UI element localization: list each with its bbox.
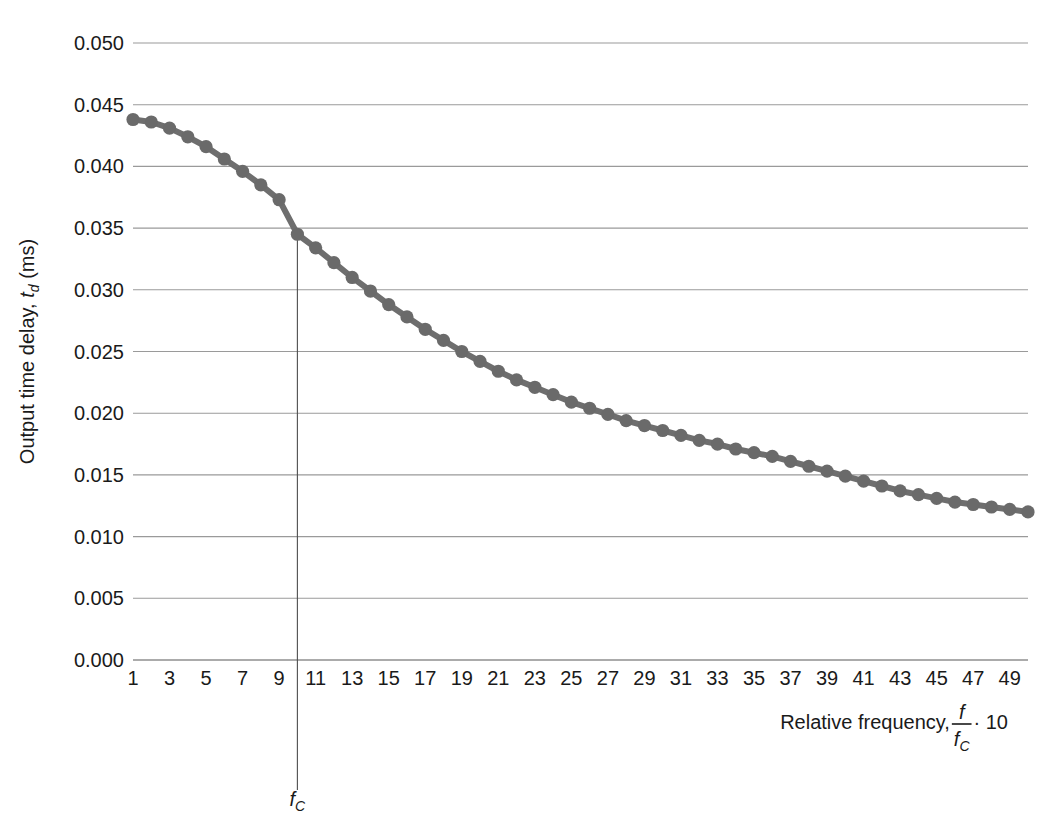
- data-point: [711, 437, 724, 450]
- data-point: [346, 271, 359, 284]
- data-point: [985, 500, 998, 513]
- series-markers: [126, 113, 1034, 519]
- x-axis-tick-label: 1: [127, 667, 138, 689]
- data-point: [912, 488, 925, 501]
- data-point: [309, 241, 322, 254]
- data-point: [145, 115, 158, 128]
- gridlines: [133, 43, 1028, 660]
- x-axis-tick-label: 33: [706, 667, 728, 689]
- y-axis-tick-label: 0.025: [74, 341, 124, 363]
- y-axis-tick-label: 0.020: [74, 402, 124, 424]
- data-point: [528, 381, 541, 394]
- data-point: [254, 178, 267, 191]
- x-axis-title-denominator: fC: [954, 728, 971, 754]
- x-axis-tick-label: 3: [164, 667, 175, 689]
- data-point: [857, 474, 870, 487]
- data-point: [693, 434, 706, 447]
- x-axis-title-denominator-subscript: C: [959, 738, 970, 754]
- x-axis-tick-label: 21: [487, 667, 509, 689]
- data-point: [875, 479, 888, 492]
- data-point: [181, 130, 194, 143]
- x-axis-tick-label: 43: [889, 667, 911, 689]
- x-axis-tick-label: 41: [852, 667, 874, 689]
- x-axis-tick-label: 31: [670, 667, 692, 689]
- x-axis-title-numerator: f: [959, 701, 967, 723]
- data-point: [620, 414, 633, 427]
- x-axis-title: · 10Relative frequency, ffC: [780, 701, 1008, 754]
- x-axis-tick-label: 13: [341, 667, 363, 689]
- x-axis-title-prefix: Relative frequency,: [780, 711, 950, 733]
- data-point: [547, 388, 560, 401]
- data-point: [766, 450, 779, 463]
- y-axis-tick-label: 0.040: [74, 155, 124, 177]
- data-point: [273, 193, 286, 206]
- data-point: [419, 323, 432, 336]
- data-point: [729, 442, 742, 455]
- data-point: [674, 429, 687, 442]
- y-axis-tick-label: 0.010: [74, 526, 124, 548]
- data-point: [930, 492, 943, 505]
- data-point: [455, 345, 468, 358]
- x-axis-tick-label: 5: [200, 667, 211, 689]
- data-point: [382, 298, 395, 311]
- x-axis-tick-label: 47: [962, 667, 984, 689]
- y-axis-title: Output time delay, td (ms): [16, 239, 42, 464]
- data-point: [948, 495, 961, 508]
- data-point: [583, 402, 596, 415]
- x-axis-title-suffix: · 10: [974, 711, 1008, 733]
- x-axis-tick-label: 37: [779, 667, 801, 689]
- data-point: [199, 140, 212, 153]
- data-point: [492, 365, 505, 378]
- y-axis-tick-label: 0.035: [74, 217, 124, 239]
- x-axis-tick-label: 27: [597, 667, 619, 689]
- x-axis-tick-label: 9: [274, 667, 285, 689]
- x-axis-tick-label: 7: [237, 667, 248, 689]
- x-axis-tick-label: 19: [451, 667, 473, 689]
- fc-annotation-subscript: C: [295, 798, 306, 814]
- x-axis-tick-label: 17: [414, 667, 436, 689]
- y-axis-title-prefix: Output time delay,: [16, 298, 38, 464]
- data-point: [638, 419, 651, 432]
- data-point: [126, 113, 139, 126]
- data-point: [601, 408, 614, 421]
- x-axis-tick-label: 11: [305, 667, 326, 689]
- y-axis-tick-label: 0.015: [74, 464, 124, 486]
- x-axis-tick-label: 25: [560, 667, 582, 689]
- data-point: [218, 152, 231, 165]
- series-line: [133, 120, 1028, 512]
- data-point: [967, 498, 980, 511]
- data-point: [437, 334, 450, 347]
- x-axis-tick-label: 23: [524, 667, 546, 689]
- x-axis-tick-label: 35: [743, 667, 765, 689]
- data-point: [565, 395, 578, 408]
- data-point: [784, 455, 797, 468]
- data-point: [400, 310, 413, 323]
- x-axis-tick-label: 39: [816, 667, 838, 689]
- x-axis-tick-labels: 1357911131517192123252729313335373941434…: [127, 667, 1020, 689]
- x-axis-tick-label: 15: [378, 667, 400, 689]
- data-point: [291, 228, 304, 241]
- fc-annotation-label: fC: [290, 788, 307, 814]
- y-axis-tick-label: 0.050: [74, 32, 124, 54]
- data-point: [1003, 503, 1016, 516]
- data-point: [1021, 505, 1034, 518]
- data-point: [163, 122, 176, 135]
- x-axis-tick-label: 29: [633, 667, 655, 689]
- data-point: [327, 256, 340, 269]
- x-axis-tick-label: 45: [926, 667, 948, 689]
- data-point: [236, 165, 249, 178]
- data-point: [839, 470, 852, 483]
- data-point: [473, 355, 486, 368]
- data-point: [656, 424, 669, 437]
- line-chart: 0.0000.0050.0100.0150.0200.0250.0300.035…: [0, 0, 1054, 832]
- data-point: [510, 373, 523, 386]
- y-axis-tick-label: 0.030: [74, 279, 124, 301]
- data-point: [820, 465, 833, 478]
- y-axis-tick-label: 0.045: [74, 94, 124, 116]
- data-point: [894, 484, 907, 497]
- y-axis-tick-label: 0.000: [74, 649, 124, 671]
- data-point: [747, 446, 760, 459]
- x-axis-tick-label: 49: [999, 667, 1021, 689]
- data-point: [364, 284, 377, 297]
- data-point: [802, 460, 815, 473]
